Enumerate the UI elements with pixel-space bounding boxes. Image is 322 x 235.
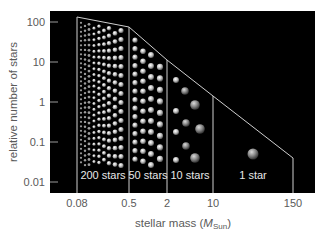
region-label: 200 stars xyxy=(80,169,126,181)
y-tick-label: 100 xyxy=(27,16,45,28)
region-label: 1 star xyxy=(239,169,267,181)
y-tick-label: 10 xyxy=(33,56,45,68)
x-tick-label: 150 xyxy=(284,197,302,209)
x-tick-label: 0.5 xyxy=(121,197,136,209)
region-label: 50 stars xyxy=(128,169,168,181)
stellar-mass-chart: 100 10 1 0.1 0.01 relative number of sta… xyxy=(0,0,322,235)
x-axis-label: stellar mass (MSun) xyxy=(135,217,231,231)
x-tick-label: 10 xyxy=(207,197,219,209)
y-tick-label: 0.01 xyxy=(24,176,45,188)
x-tick-label: 2 xyxy=(164,197,170,209)
y-tick-label: 0.1 xyxy=(30,136,45,148)
y-tick-label: 1 xyxy=(39,96,45,108)
x-tick-label: 0.08 xyxy=(66,197,87,209)
stars-region-1 xyxy=(248,149,259,160)
y-axis-label: relative number of stars xyxy=(7,42,19,162)
x-axis: 0.08 0.5 2 10 150 stellar mass (MSun) xyxy=(66,197,302,231)
region-label: 10 stars xyxy=(170,169,210,181)
